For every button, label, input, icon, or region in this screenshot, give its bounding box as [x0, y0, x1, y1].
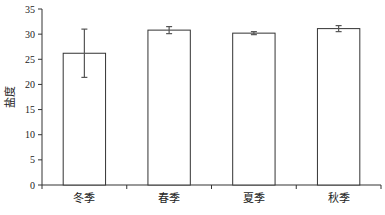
bar-夏季 — [233, 32, 275, 185]
bar-春季 — [148, 27, 190, 185]
x-category-label: 秋季 — [328, 191, 350, 205]
y-tick-label: 10 — [25, 129, 35, 140]
y-tick-label: 30 — [25, 29, 35, 40]
y-axis: 05101520253035 — [25, 4, 42, 191]
bar-秋季 — [317, 26, 359, 185]
y-tick-label: 15 — [25, 104, 35, 115]
x-category-label: 冬季 — [73, 191, 95, 205]
y-tick-label: 0 — [30, 180, 35, 191]
bar-冬季 — [63, 29, 105, 185]
bar-chart: 05101520253035 冬季春季夏季秋季 盐度 — [0, 0, 385, 215]
bar-rect — [233, 33, 275, 185]
x-category-label: 春季 — [158, 192, 180, 205]
y-tick-label: 35 — [25, 4, 35, 15]
y-tick-label: 25 — [25, 54, 35, 65]
y-tick-label: 5 — [30, 154, 35, 165]
x-axis: 冬季春季夏季秋季 — [42, 185, 381, 205]
bar-rect — [317, 29, 359, 185]
y-axis-title: 盐度 — [3, 86, 17, 108]
bars — [63, 26, 360, 185]
x-category-label: 夏季 — [243, 192, 265, 205]
y-tick-label: 20 — [25, 79, 35, 90]
bar-rect — [148, 30, 190, 185]
